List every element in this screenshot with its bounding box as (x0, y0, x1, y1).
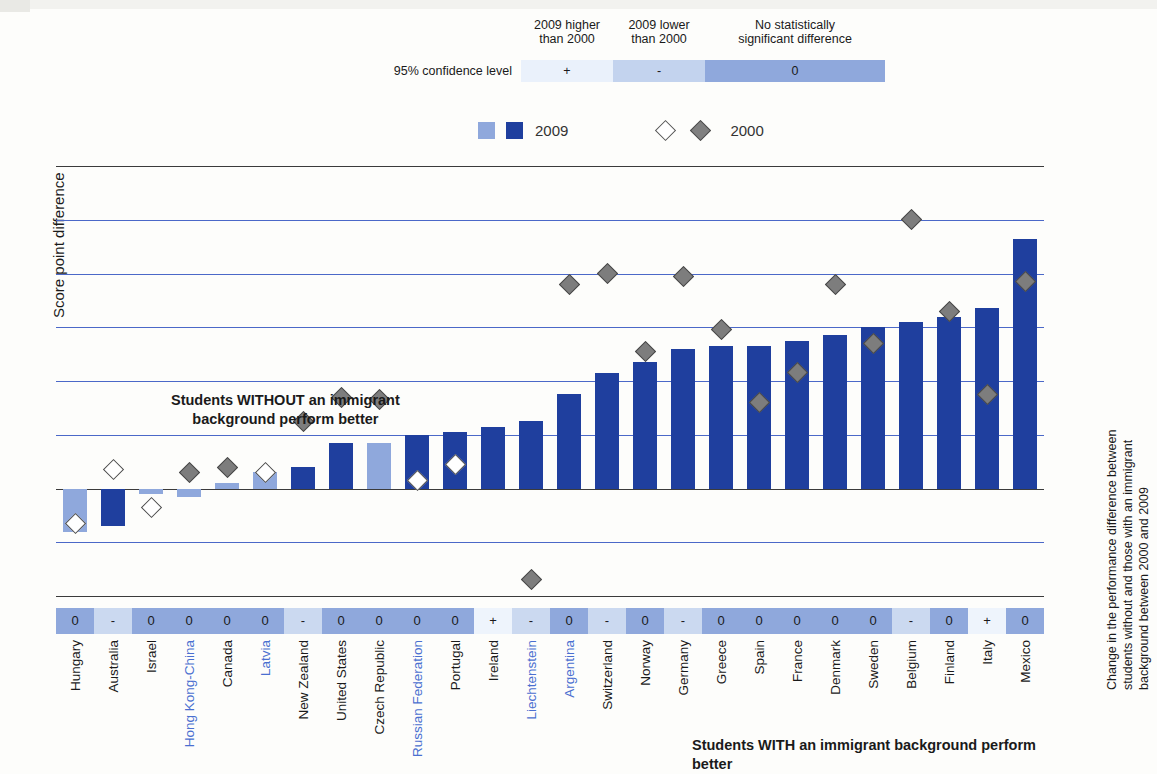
significance-cell-hungary: 0 (56, 608, 94, 634)
bar-belgium (899, 322, 923, 489)
sig-swatch-minus: - (613, 60, 705, 82)
right-axis-label: Change in the performance difference bet… (1104, 430, 1152, 690)
country-label-wrap: Russian Federation (398, 638, 436, 774)
country-label-wrap: New Zealand (284, 638, 322, 774)
significance-cell-liechtenstein: - (512, 608, 550, 634)
y-axis-label: Score point difference (50, 172, 67, 318)
significance-cell-hong-kong-china: 0 (170, 608, 208, 634)
country-label-mexico: Mexico (1018, 640, 1033, 683)
country-label-hungary: Hungary (68, 640, 83, 691)
gridline-40 (56, 381, 1044, 382)
country-label-australia: Australia (106, 640, 121, 693)
sig-swatch-zero: 0 (705, 60, 885, 82)
country-label-wrap: Greece (702, 638, 740, 774)
country-label-wrap: Liechtenstein (512, 638, 550, 774)
country-label-italy: Italy (980, 640, 995, 665)
significance-cell-italy: + (968, 608, 1006, 634)
country-label-wrap: Portugal (436, 638, 474, 774)
country-label-united-states: United States (334, 640, 349, 721)
significance-cell-norway: 0 (626, 608, 664, 634)
country-label-greece: Greece (714, 640, 729, 684)
gridline--40 (56, 596, 1044, 597)
country-label-argentina: Argentina (562, 640, 577, 698)
bar-canada (215, 483, 239, 488)
gridline-60 (56, 327, 1044, 328)
legend-diamond-open-icon (655, 119, 676, 140)
country-label-sweden: Sweden (866, 640, 881, 689)
bar-ireland (481, 427, 505, 489)
bar-australia (101, 489, 125, 527)
country-label-russian-federation: Russian Federation (410, 640, 425, 757)
marker-2000-switzerland (596, 263, 617, 284)
bar-czech-republic (367, 443, 391, 489)
bar-liechtenstein (519, 421, 543, 488)
marker-2000-australia (102, 459, 123, 480)
country-label-france: France (790, 640, 805, 682)
bar-spain (747, 346, 771, 488)
significance-cell-canada: 0 (208, 608, 246, 634)
bar-greece (709, 346, 733, 488)
marker-2000-hong-kong-china (178, 462, 199, 483)
gridline-100 (56, 220, 1044, 221)
marker-2000-greece (710, 319, 731, 340)
significance-cell-switzerland: - (588, 608, 626, 634)
bar-norway (633, 362, 657, 488)
bar-germany (671, 349, 695, 489)
significance-cell-denmark: 0 (816, 608, 854, 634)
gridline-0 (56, 489, 1044, 490)
significance-cell-new-zealand: - (284, 608, 322, 634)
significance-cell-greece: 0 (702, 608, 740, 634)
page-top-band (0, 0, 1157, 9)
marker-2000-israel (140, 497, 161, 518)
country-label-new-zealand: New Zealand (296, 640, 311, 720)
country-label-wrap: United States (322, 638, 360, 774)
country-label-canada: Canada (220, 640, 235, 687)
country-label-wrap: Spain (740, 638, 778, 774)
country-label-wrap: Denmark (816, 638, 854, 774)
x-axis-country-labels: HungaryAustraliaIsraelHong Kong-ChinaCan… (56, 638, 1044, 774)
country-label-wrap: Finland (930, 638, 968, 774)
legend-label-2009: 2009 (535, 122, 568, 139)
country-label-wrap: Sweden (854, 638, 892, 774)
country-label-spain: Spain (752, 640, 767, 675)
bar-israel (139, 489, 163, 494)
country-label-denmark: Denmark (828, 640, 843, 695)
marker-2000-belgium (900, 209, 921, 230)
significance-cell-spain: 0 (740, 608, 778, 634)
country-label-ireland: Ireland (486, 640, 501, 681)
country-label-wrap: Argentina (550, 638, 588, 774)
bar-argentina (557, 394, 581, 488)
significance-cell-belgium: - (892, 608, 930, 634)
country-label-germany: Germany (676, 640, 691, 696)
country-label-wrap: Mexico (1006, 638, 1044, 774)
country-label-belgium: Belgium (904, 640, 919, 689)
significance-cell-ireland: + (474, 608, 512, 634)
series-legend: 2009 2000 (478, 118, 764, 142)
country-label-wrap: Germany (664, 638, 702, 774)
sig-header-nodiff: No statistically significant difference (705, 18, 885, 46)
chart-plot-area: Score point difference 120100806040200-2… (56, 166, 1044, 596)
marker-2000-liechtenstein (520, 569, 541, 590)
significance-cell-germany: - (664, 608, 702, 634)
significance-legend-headers: 2009 higher than 2000 2009 lower than 20… (521, 18, 885, 46)
country-label-wrap: Belgium (892, 638, 930, 774)
gridline--20 (56, 542, 1044, 543)
legend-swatch-2009-light (478, 122, 495, 139)
significance-cell-russian-federation: 0 (398, 608, 436, 634)
country-label-wrap: Czech Republic (360, 638, 398, 774)
country-label-wrap: Israel (132, 638, 170, 774)
bar-denmark (823, 335, 847, 488)
page-corner-band (0, 0, 30, 12)
significance-cell-sweden: 0 (854, 608, 892, 634)
legend-swatch-2009-dark (506, 122, 523, 139)
marker-2000-argentina (558, 274, 579, 295)
country-label-switzerland: Switzerland (600, 640, 615, 710)
gridline-20 (56, 435, 1044, 436)
significance-cell-finland: 0 (930, 608, 968, 634)
significance-cell-argentina: 0 (550, 608, 588, 634)
significance-cell-israel: 0 (132, 608, 170, 634)
bar-switzerland (595, 373, 619, 489)
sig-header-higher: 2009 higher than 2000 (521, 18, 613, 46)
significance-cell-mexico: 0 (1006, 608, 1044, 634)
country-label-wrap: Switzerland (588, 638, 626, 774)
